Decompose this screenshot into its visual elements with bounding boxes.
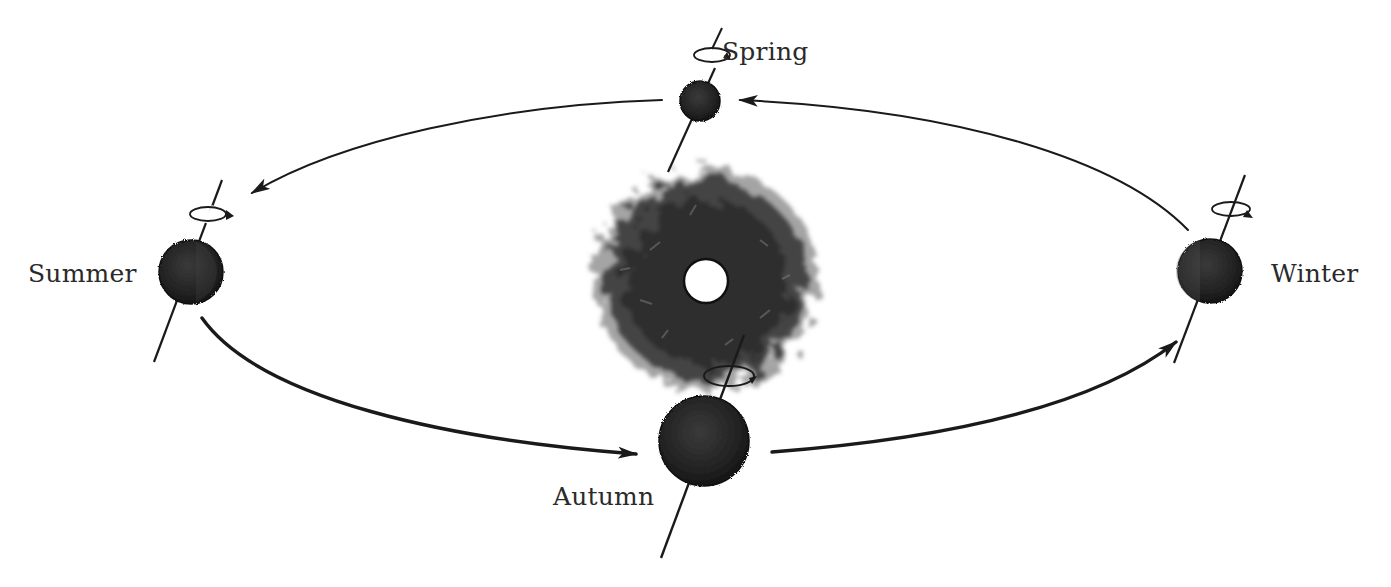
arrow-autumn-to-winter — [772, 342, 1176, 452]
arrow-winter-to-spring — [740, 100, 1188, 230]
label-autumn: Autumn — [553, 482, 654, 511]
label-winter: Winter — [1271, 259, 1358, 288]
sun-core — [684, 259, 728, 303]
arrow-summer-to-autumn — [202, 318, 636, 454]
arrow-spring-to-summer — [252, 100, 662, 193]
orbit-diagram — [0, 0, 1391, 587]
spring-planet-body — [680, 81, 720, 121]
summer-spin-icon — [190, 206, 234, 223]
sun — [594, 168, 818, 392]
autumn-planet-body — [659, 396, 749, 486]
planet-summer — [154, 180, 234, 362]
label-spring: Spring — [722, 37, 808, 66]
planet-winter — [1174, 175, 1253, 363]
label-summer: Summer — [28, 259, 137, 288]
